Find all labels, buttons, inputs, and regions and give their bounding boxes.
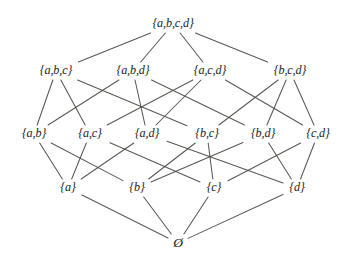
node-empty[interactable]: Ø xyxy=(170,235,186,251)
hasse-diagram-canvas: {a,b,c,d}{a,b,c}{a,b,d}{a,c,d}{b,c,d}{a,… xyxy=(0,0,349,259)
node-label-bcd: {b,c,d} xyxy=(274,63,307,77)
edge-abcd-acd xyxy=(180,33,203,62)
edge-bc-b xyxy=(149,143,196,179)
node-bc[interactable]: {b,c} xyxy=(189,126,225,142)
node-bd[interactable]: {b,d} xyxy=(245,126,281,142)
edge-acd-ad xyxy=(156,80,201,125)
node-label-abc: {a,b,c} xyxy=(40,63,73,77)
node-ac[interactable]: {a,c} xyxy=(72,126,108,142)
node-label-ab: {a,b} xyxy=(22,126,47,140)
edge-ad-d xyxy=(167,141,283,183)
edge-c-empty xyxy=(184,197,208,234)
node-label-ad: {a,d} xyxy=(135,126,160,140)
node-label-bd: {b,d} xyxy=(251,126,276,140)
edge-bd-b xyxy=(151,143,243,182)
node-label-abd: {a,b,d} xyxy=(116,63,149,77)
edge-bc-c xyxy=(208,143,213,179)
edge-abd-ad xyxy=(135,80,145,125)
edge-acd-cd xyxy=(225,80,302,125)
edge-a-empty xyxy=(82,195,168,238)
edge-abcd-bcd xyxy=(195,33,267,62)
node-label-cd: {c,d} xyxy=(306,126,330,140)
edge-abc-bc xyxy=(78,80,187,126)
node-c[interactable]: {c} xyxy=(202,180,226,196)
edge-ac-a xyxy=(72,143,87,179)
node-ab[interactable]: {a,b} xyxy=(16,126,52,142)
node-label-b: {b} xyxy=(129,180,145,194)
edge-abcd-abd xyxy=(141,33,166,62)
node-d[interactable]: {d} xyxy=(285,180,309,196)
edge-abc-ab xyxy=(37,80,53,125)
edge-cd-c xyxy=(228,143,301,181)
node-abd[interactable]: {a,b,d} xyxy=(110,63,156,79)
node-label-d: {d} xyxy=(289,180,305,194)
edge-abd-ab xyxy=(48,80,119,125)
edge-cd-d xyxy=(301,143,315,179)
edge-abc-ac xyxy=(61,80,85,125)
edge-abd-bd xyxy=(152,80,245,125)
edge-d-empty xyxy=(188,194,283,238)
node-label-bc: {b,c} xyxy=(195,126,219,140)
node-label-c: {c} xyxy=(207,180,222,194)
node-ad[interactable]: {a,d} xyxy=(129,126,165,142)
node-acd[interactable]: {a,c,d} xyxy=(187,63,233,79)
edge-acd-ac xyxy=(107,80,193,125)
edge-bcd-cd xyxy=(294,80,314,125)
edge-bd-d xyxy=(269,143,292,179)
node-label-acd: {a,c,d} xyxy=(194,63,227,77)
edge-ad-a xyxy=(81,143,134,179)
node-label-a: {a} xyxy=(60,180,76,194)
node-bcd[interactable]: {b,c,d} xyxy=(267,63,313,79)
node-cd[interactable]: {c,d} xyxy=(300,126,336,142)
hasse-diagram-svg: {a,b,c,d}{a,b,c}{a,b,d}{a,c,d}{b,c,d}{a,… xyxy=(0,0,349,259)
edge-ab-a xyxy=(40,143,63,179)
node-layer: {a,b,c,d}{a,b,c}{a,b,d}{a,c,d}{b,c,d}{a,… xyxy=(16,16,336,251)
node-label-abcd: {a,b,c,d} xyxy=(152,16,194,30)
node-a[interactable]: {a} xyxy=(56,180,80,196)
node-b[interactable]: {b} xyxy=(125,180,149,196)
node-label-ac: {a,c} xyxy=(78,126,102,140)
node-abcd[interactable]: {a,b,c,d} xyxy=(145,16,201,32)
node-label-empty: Ø xyxy=(172,235,184,250)
edge-abcd-abc xyxy=(78,33,150,62)
node-abc[interactable]: {a,b,c} xyxy=(33,63,79,79)
